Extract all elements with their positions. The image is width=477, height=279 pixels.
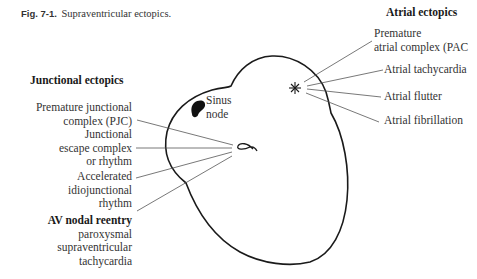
atrial-item-fibrillation: Atrial fibrillation	[384, 114, 463, 128]
sinus-node-blob	[191, 101, 205, 118]
atrial-item-flutter: Atrial flutter	[384, 90, 442, 104]
junctional-ectopics-heading: Junctional ectopics	[30, 74, 124, 88]
junctional-item-escape: Junctional escape complex or rhythm	[59, 128, 132, 169]
junctional-item-pjc: Premature junctional complex (PJC)	[36, 101, 132, 128]
av-nodal-heading: AV nodal reentry	[48, 214, 132, 228]
junctional-leader-lines	[136, 120, 233, 211]
heart-outline	[166, 56, 348, 264]
atrial-ectopics-heading: Atrial ectopics	[386, 6, 457, 20]
av-nodal-reentry: AV nodal reentry paroxysmal supraventric…	[48, 214, 132, 268]
asterisk-icon	[289, 82, 301, 94]
atrial-leader-lines	[304, 41, 383, 122]
junctional-item-accelerated: Accelerated idiojunctional rhythm	[68, 170, 132, 211]
atrial-item-pac: Premature atrial complex (PAC	[374, 27, 468, 54]
atrial-item-tachycardia: Atrial tachycardia	[384, 63, 467, 77]
av-node-icon	[238, 144, 257, 151]
sinus-node-label: Sinus node	[206, 94, 232, 121]
